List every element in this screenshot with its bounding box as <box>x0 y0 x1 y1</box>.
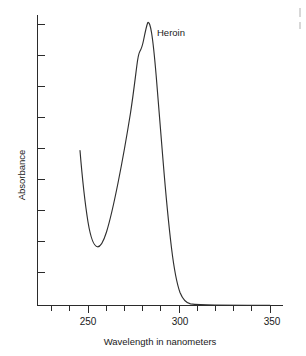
curve-annotation-heroin: Heroin <box>157 27 185 38</box>
x-axis-caption: Wavelength in nanometers <box>104 336 217 347</box>
x-axis-ticks <box>52 306 270 314</box>
scan-artifact-mark <box>299 8 301 17</box>
scan-artifact-mark <box>299 22 301 29</box>
y-axis-caption: Absorbance <box>16 150 27 201</box>
spectrum-curve-heroin <box>80 22 270 305</box>
spectrum-figure: 250 300 350 Wavelength in nanometers Abs… <box>0 0 306 356</box>
x-tick-label-250: 250 <box>80 316 97 327</box>
spectrum-plot: 250 300 350 Wavelength in nanometers Abs… <box>0 0 306 356</box>
y-axis-ticks <box>38 24 45 272</box>
x-tick-label-350: 350 <box>264 316 281 327</box>
x-tick-label-300: 300 <box>172 316 189 327</box>
